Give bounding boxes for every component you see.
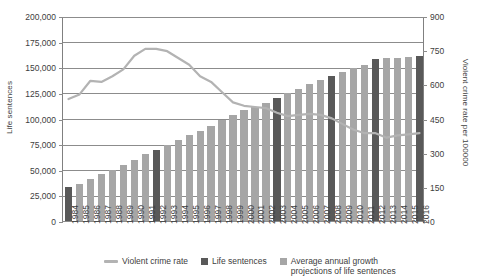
x-axis-label-2002: 2002	[268, 205, 277, 224]
axis-tick-left	[59, 222, 63, 223]
x-axis-label-2012: 2012	[378, 205, 387, 224]
x-axis-label-1999: 1999	[236, 205, 245, 224]
legend-item-2[interactable]: Average annual growthprojections of life…	[280, 256, 396, 276]
y-axis-right-tick-label: 450	[430, 116, 470, 125]
x-axis-label-2004: 2004	[290, 205, 299, 224]
x-axis-label-2013: 2013	[389, 205, 398, 224]
x-axis-label-2015: 2015	[411, 205, 420, 224]
violent-crime-life-sentences-chart: Life sentences Violent crime rate per 10…	[0, 0, 485, 279]
legend-label: Life sentences	[212, 256, 267, 266]
legend-item-1[interactable]: Life sentences	[201, 256, 267, 266]
x-axis-label-1989: 1989	[126, 205, 135, 224]
x-axis-label-2007: 2007	[323, 205, 332, 224]
y-axis-right-tick-label: 0	[430, 218, 470, 227]
y-axis-right-tick-label: 150	[430, 184, 470, 193]
x-axis-label-2008: 2008	[334, 205, 343, 224]
x-axis-label-1993: 1993	[170, 205, 179, 224]
legend-box-swatch-icon	[280, 258, 287, 265]
violent-crime-rate-line	[63, 17, 425, 222]
x-axis-label-2001: 2001	[257, 205, 266, 224]
x-axis-label-1987: 1987	[104, 205, 113, 224]
x-axis-label-1985: 1985	[82, 205, 91, 224]
y-axis-left-tick-label: 150,000	[8, 64, 56, 73]
x-axis-label-1984: 1984	[71, 205, 80, 224]
y-axis-left-tick-label: 125,000	[8, 90, 56, 99]
y-axis-right-tick-label: 300	[430, 150, 470, 159]
x-axis-label-1992: 1992	[159, 205, 168, 224]
x-axis-labels: 1984198519861987198819891990199119921993…	[62, 224, 424, 254]
chart-legend: Violent crime rateLife sentencesAverage …	[104, 256, 409, 276]
legend-item-0[interactable]: Violent crime rate	[104, 256, 188, 266]
y-axis-left-tick-label: 200,000	[8, 13, 56, 22]
x-axis-label-1996: 1996	[203, 205, 212, 224]
x-axis-label-2006: 2006	[312, 205, 321, 224]
x-axis-label-1998: 1998	[225, 205, 234, 224]
legend-label: Average annual growthprojections of life…	[291, 256, 396, 276]
legend-box-swatch-icon	[201, 258, 208, 265]
y-axis-left-tick-label: 25,000	[8, 192, 56, 201]
x-axis-label-1994: 1994	[181, 205, 190, 224]
x-axis-label-2009: 2009	[345, 205, 354, 224]
y-axis-left-title: Life sentences	[5, 73, 14, 143]
legend-line-swatch-icon	[104, 260, 118, 263]
x-axis-label-2011: 2011	[367, 206, 376, 224]
plot-area	[62, 17, 424, 222]
x-axis-label-1986: 1986	[93, 205, 102, 224]
x-axis-label-2016: 2016	[422, 205, 431, 224]
x-axis-label-2014: 2014	[400, 205, 409, 224]
x-axis-label-1990: 1990	[137, 205, 146, 224]
y-axis-right-tick-label: 900	[430, 13, 470, 22]
y-axis-left-tick-label: 50,000	[8, 167, 56, 176]
x-axis-label-1997: 1997	[214, 205, 223, 224]
x-axis-label-1988: 1988	[115, 205, 124, 224]
y-axis-left-tick-label: 175,000	[8, 39, 56, 48]
x-axis-label-1995: 1995	[192, 205, 201, 224]
y-axis-left-tick-label: 100,000	[8, 116, 56, 125]
y-axis-right-tick-label: 750	[430, 47, 470, 56]
y-axis-left-tick-label: 0	[8, 218, 56, 227]
x-axis-label-2003: 2003	[279, 205, 288, 224]
x-axis-label-2000: 2000	[247, 205, 256, 224]
x-axis-label-1991: 1991	[148, 205, 157, 224]
legend-label: Violent crime rate	[122, 256, 188, 266]
y-axis-left-tick-label: 75,000	[8, 141, 56, 150]
x-axis-label-2010: 2010	[356, 205, 365, 224]
y-axis-right-tick-label: 600	[430, 81, 470, 90]
x-axis-label-2005: 2005	[301, 205, 310, 224]
